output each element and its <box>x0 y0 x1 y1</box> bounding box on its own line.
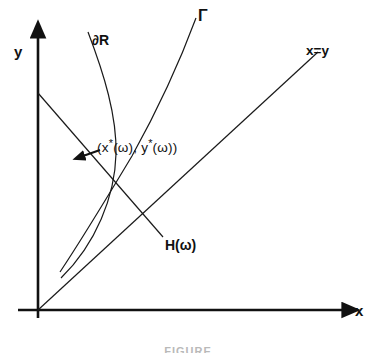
figure-diagram: y x Γ ∂R x=y H(ω) (x*(ω), y*(ω)) FIGURE <box>0 0 376 353</box>
y-axis-label: y <box>14 44 22 59</box>
point-open: (x <box>97 140 109 155</box>
figure-caption: FIGURE <box>0 345 376 353</box>
x-axis-label: x <box>355 303 363 318</box>
optimal-point-label: (x*(ω), y*(ω)) <box>97 141 177 155</box>
diagonal-line-x-equals-y <box>38 52 318 310</box>
h-omega-line <box>38 93 163 237</box>
diagonal-line-label: x=y <box>306 44 329 58</box>
point-mid: (ω), y <box>113 140 148 155</box>
h-omega-label: H(ω) <box>165 238 196 252</box>
gamma-curve-label: Γ <box>198 8 208 24</box>
point-tail: (ω)) <box>153 140 178 155</box>
boundary-curve-label: ∂R <box>92 33 109 47</box>
